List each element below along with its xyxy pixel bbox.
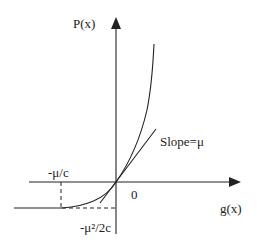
x-axis-arrow-icon — [229, 177, 241, 187]
y-axis-arrow-icon — [111, 17, 121, 29]
x-mark-label: -μ/c — [48, 165, 69, 180]
penalty-curve — [62, 44, 154, 208]
tangent-line — [100, 129, 156, 203]
x-axis-label: g(x) — [220, 201, 242, 216]
origin-label: 0 — [131, 187, 138, 202]
penalty-function-diagram: P(x) g(x) 0 Slope=μ -μ/c -μ²/2c — [0, 0, 257, 243]
slope-label: Slope=μ — [160, 134, 204, 149]
y-mark-label: -μ²/2c — [80, 220, 111, 235]
y-axis-label: P(x) — [73, 16, 95, 31]
